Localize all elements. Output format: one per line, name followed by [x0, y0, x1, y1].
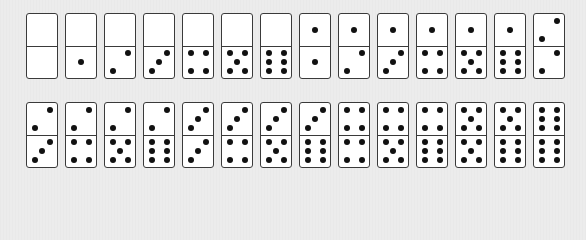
pip-icon — [468, 148, 474, 154]
domino-tile-0-6 — [260, 13, 292, 79]
domino-half-top — [378, 14, 408, 47]
domino-half-bottom — [144, 47, 174, 79]
pip-icon — [281, 68, 287, 74]
pip-icon — [305, 125, 311, 131]
pip-icon — [32, 125, 38, 131]
pip-icon — [461, 50, 467, 56]
domino-half-top — [105, 14, 135, 47]
domino-half-bottom — [144, 136, 174, 168]
pip-icon — [281, 59, 287, 65]
pip-icon — [476, 50, 482, 56]
domino-half-top — [495, 103, 525, 136]
pip-icon — [515, 148, 521, 154]
pip-icon — [110, 125, 116, 131]
pip-icon — [500, 68, 506, 74]
domino-tile-3-6 — [299, 102, 331, 168]
pip-icon — [320, 107, 326, 113]
pip-icon — [78, 59, 84, 65]
domino-half-top — [222, 14, 252, 47]
pip-icon — [359, 125, 365, 131]
domino-tile-3-5 — [260, 102, 292, 168]
domino-half-bottom — [417, 136, 447, 168]
domino-tile-3-3 — [182, 102, 214, 168]
pip-icon — [164, 157, 170, 163]
pip-icon — [515, 125, 521, 131]
domino-half-bottom — [261, 136, 291, 168]
pip-icon — [539, 68, 545, 74]
pip-icon — [344, 139, 350, 145]
domino-tile-4-6 — [416, 102, 448, 168]
pip-icon — [32, 157, 38, 163]
pip-icon — [188, 68, 194, 74]
pip-icon — [344, 125, 350, 131]
pip-icon — [164, 107, 170, 113]
pip-icon — [305, 157, 311, 163]
pip-icon — [554, 139, 560, 145]
pip-icon — [344, 107, 350, 113]
domino-half-bottom — [66, 136, 96, 168]
pip-icon — [203, 50, 209, 56]
pip-icon — [515, 157, 521, 163]
pip-icon — [539, 148, 545, 154]
domino-half-bottom — [222, 136, 252, 168]
domino-half-top — [339, 14, 369, 47]
pip-icon — [422, 157, 428, 163]
pip-icon — [461, 125, 467, 131]
pip-icon — [266, 59, 272, 65]
domino-half-bottom — [300, 136, 330, 168]
domino-tile-2-2 — [533, 13, 565, 79]
pip-icon — [149, 157, 155, 163]
domino-half-bottom — [534, 136, 564, 168]
domino-tile-5-5 — [455, 102, 487, 168]
pip-icon — [71, 125, 77, 131]
pip-icon — [383, 139, 389, 145]
pip-icon — [507, 116, 513, 122]
pip-icon — [515, 68, 521, 74]
domino-tile-0-2 — [104, 13, 136, 79]
pip-icon — [266, 157, 272, 163]
pip-icon — [156, 59, 162, 65]
pip-icon — [359, 139, 365, 145]
domino-half-top — [66, 14, 96, 47]
pip-icon — [266, 125, 272, 131]
pip-icon — [500, 157, 506, 163]
pip-icon — [476, 125, 482, 131]
pip-icon — [554, 18, 560, 24]
pip-icon — [305, 139, 311, 145]
pip-icon — [422, 50, 428, 56]
domino-half-bottom — [534, 47, 564, 79]
pip-icon — [149, 68, 155, 74]
domino-tile-1-5 — [455, 13, 487, 79]
pip-icon — [383, 68, 389, 74]
pip-icon — [149, 139, 155, 145]
pip-icon — [281, 50, 287, 56]
domino-half-bottom — [495, 136, 525, 168]
pip-icon — [47, 107, 53, 113]
domino-half-top — [183, 14, 213, 47]
pip-icon — [195, 116, 201, 122]
pip-icon — [86, 107, 92, 113]
domino-half-bottom — [105, 47, 135, 79]
pip-icon — [461, 68, 467, 74]
pip-icon — [312, 116, 318, 122]
domino-half-top — [144, 14, 174, 47]
pip-icon — [125, 50, 131, 56]
domino-half-top — [456, 14, 486, 47]
pip-icon — [188, 50, 194, 56]
pip-icon — [242, 50, 248, 56]
domino-half-bottom — [378, 47, 408, 79]
pip-icon — [234, 116, 240, 122]
pip-icon — [227, 125, 233, 131]
pip-icon — [86, 139, 92, 145]
domino-half-top — [300, 103, 330, 136]
pip-icon — [164, 148, 170, 154]
domino-half-bottom — [105, 136, 135, 168]
pip-icon — [281, 157, 287, 163]
pip-icon — [500, 148, 506, 154]
domino-tile-0-0 — [26, 13, 58, 79]
pip-icon — [242, 139, 248, 145]
pip-icon — [554, 125, 560, 131]
domino-tile-4-4 — [338, 102, 370, 168]
pip-icon — [149, 125, 155, 131]
pip-icon — [188, 125, 194, 131]
